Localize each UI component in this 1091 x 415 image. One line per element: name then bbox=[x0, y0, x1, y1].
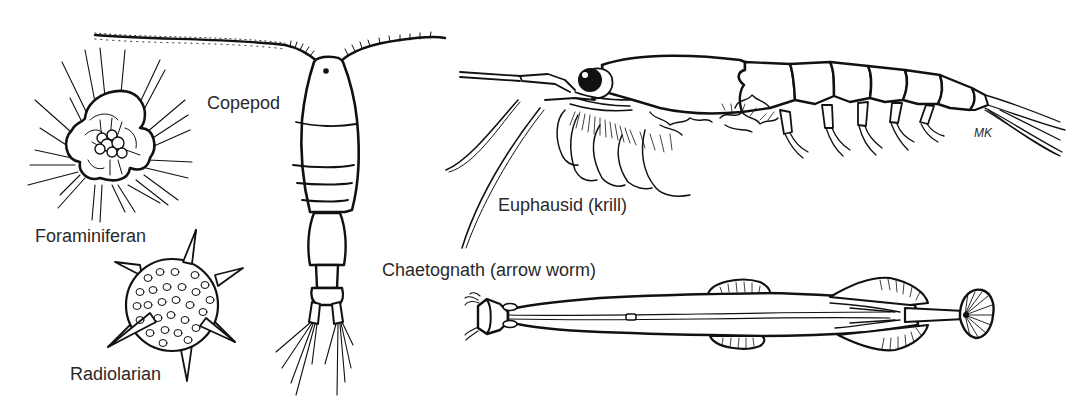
artist-signature: MK bbox=[974, 127, 992, 139]
chaetognath-label: Chaetognath (arrow worm) bbox=[382, 261, 596, 279]
foraminiferan-label: Foraminiferan bbox=[35, 227, 146, 245]
radiolarian-label: Radiolarian bbox=[70, 365, 161, 383]
euphausid-label: Euphausid (krill) bbox=[498, 196, 627, 214]
copepod-label: Copepod bbox=[207, 94, 280, 112]
radiolarian-drawing bbox=[108, 230, 243, 381]
chaetognath-drawing bbox=[465, 278, 994, 351]
foraminiferan-drawing bbox=[28, 48, 192, 222]
plankton-illustration: Copepod Foraminiferan Radiolarian Euphau… bbox=[0, 0, 1091, 415]
euphausid-drawing bbox=[446, 56, 1065, 248]
